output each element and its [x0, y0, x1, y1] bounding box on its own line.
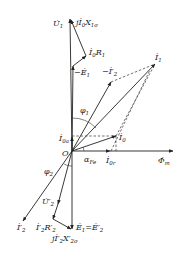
- arc-phi1: [72, 118, 96, 128]
- label-I0r: İ0r: [105, 156, 116, 166]
- label-I2prime: İ′2: [16, 223, 26, 233]
- vector-I0R1: [73, 56, 86, 66]
- label-origin: O: [62, 149, 69, 158]
- label-I0a: İ0a: [58, 134, 69, 144]
- label-I0: İ0: [118, 133, 126, 143]
- vector-U2prime: [58, 151, 72, 204]
- label-I0R1: İ0R1: [88, 48, 105, 58]
- phasor-diagram: U̇1 jİ0X1σ İ0R1 −Ė1 −İ′2 İ1 φ1 İ0a İ0 O …: [0, 0, 184, 258]
- label-U1: U̇1: [53, 19, 63, 29]
- label-phi1: φ1: [80, 106, 89, 116]
- dashed-I0-parallel: [111, 70, 150, 151]
- label-phi2: φ2: [44, 167, 54, 177]
- label-Phim: Φ̇m: [158, 156, 170, 166]
- label-U2prime: U̇′2: [42, 197, 55, 207]
- label-jI0X1sigma: jİ0X1σ: [74, 18, 98, 28]
- vector-U1: [70, 19, 72, 151]
- label-alphaFe: αFe: [84, 155, 97, 165]
- vector-I2prime: [23, 151, 72, 221]
- arc-alphaFe: [83, 147, 84, 151]
- label-I1: İ1: [154, 53, 162, 63]
- label-I2primeR2prime: İ′2R′2: [35, 223, 56, 233]
- label-neg-E1: −Ė1: [74, 68, 90, 78]
- label-E1-eq-E2prime: Ė1=Ė′2: [75, 223, 104, 233]
- label-neg-I2prime: −İ′2: [102, 67, 118, 77]
- label-jI2primeX2sigma: jİ′2X′2σ: [50, 234, 78, 244]
